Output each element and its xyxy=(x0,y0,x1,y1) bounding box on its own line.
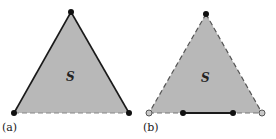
segment-start-point xyxy=(180,110,186,116)
panel-label: (a) xyxy=(2,121,17,134)
vertex-right-open-point xyxy=(259,110,265,116)
vertex-apex-point xyxy=(68,9,74,15)
vertex-right-point xyxy=(126,110,132,116)
region-label: S xyxy=(201,71,210,85)
vertex-left-point xyxy=(11,110,17,116)
figure: S (a) S (b) xyxy=(0,0,276,139)
region-s-triangle xyxy=(14,12,129,113)
region-label: S xyxy=(66,70,75,84)
panel-label: (b) xyxy=(143,121,159,134)
segment-end-point xyxy=(230,110,236,116)
region-s-triangle xyxy=(149,14,262,113)
vertex-apex-point xyxy=(203,11,209,17)
panel-b: S (b) xyxy=(143,11,265,134)
panel-a: S (a) xyxy=(2,9,132,134)
vertex-left-open-point xyxy=(146,110,152,116)
